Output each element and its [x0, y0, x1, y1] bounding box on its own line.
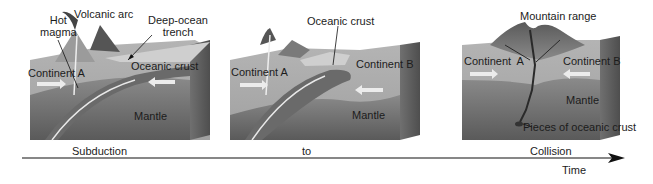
label-mantle-1: Mantle [134, 110, 167, 122]
label-pieces-oceanic-crust: Pieces of oceanic crust [523, 121, 636, 133]
label-hot-magma-line1: Hot [40, 14, 77, 26]
label-continent-a-2: Continent A [231, 66, 288, 78]
timeline-label-subduction: Subduction [72, 145, 127, 157]
label-oceanic-crust-1: Oceanic crust [131, 60, 198, 72]
label-hot-magma-line2: magma [40, 26, 77, 38]
timeline-label-to: to [302, 145, 311, 157]
label-continent-b-3: Continent B [563, 55, 620, 67]
label-oceanic-crust-2: Oceanic crust [307, 15, 374, 27]
label-deep-ocean-trench: Deep-ocean trench [148, 14, 208, 38]
label-trench-line1: Deep-ocean [148, 14, 208, 26]
label-continent-a-3: Continent A [464, 55, 524, 67]
label-mountain-range: Mountain range [520, 10, 596, 22]
label-mantle-2: Mantle [352, 109, 385, 121]
label-continent-b-2: Continent B [356, 58, 413, 70]
panel-transition [230, 26, 420, 140]
label-mantle-3: Mantle [566, 94, 599, 106]
label-trench-line2: trench [148, 26, 208, 38]
label-continent-a-1: Continent A [28, 67, 85, 79]
label-volcanic-arc: Volcanic arc [74, 8, 133, 20]
timeline-label-collision: Collision [530, 145, 572, 157]
timeline-axis-label-time: Time [562, 164, 586, 176]
label-hot-magma: Hot magma [40, 14, 77, 38]
